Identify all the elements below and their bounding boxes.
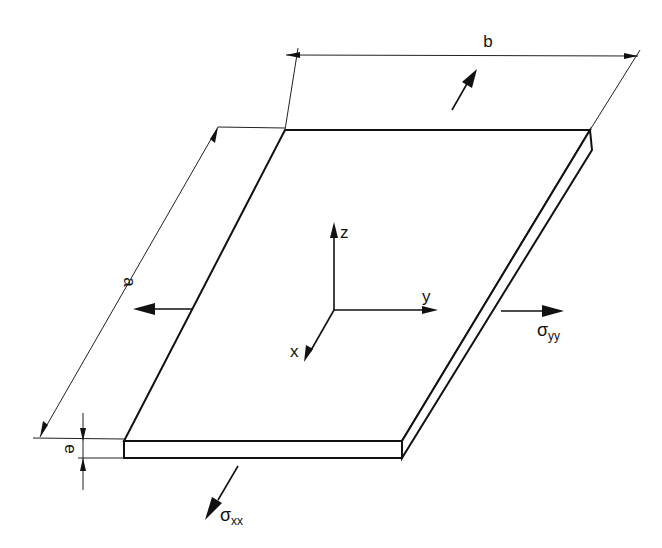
dimension-b-label: b bbox=[483, 32, 492, 51]
plate-top-face bbox=[124, 130, 590, 441]
dimension-b: b bbox=[285, 32, 640, 130]
z-axis-label: z bbox=[340, 223, 349, 242]
sigma-xx-label: σxx bbox=[220, 505, 243, 528]
plate-front-face bbox=[124, 441, 402, 458]
plate-diagram: b a e z y x bbox=[0, 0, 662, 548]
dimension-e-label: e bbox=[61, 444, 80, 453]
stress-arrow-left bbox=[133, 303, 193, 315]
stress-arrow-yy: σyy bbox=[501, 305, 564, 343]
dimension-e: e bbox=[61, 413, 124, 490]
stress-arrow-back bbox=[452, 69, 477, 110]
sigma-yy-label: σyy bbox=[537, 320, 560, 343]
x-axis-label: x bbox=[290, 342, 299, 361]
plate bbox=[124, 130, 592, 458]
stress-arrow-xx: σxx bbox=[205, 466, 243, 528]
y-axis-label: y bbox=[422, 287, 431, 306]
dimension-a-label: a bbox=[120, 277, 139, 287]
